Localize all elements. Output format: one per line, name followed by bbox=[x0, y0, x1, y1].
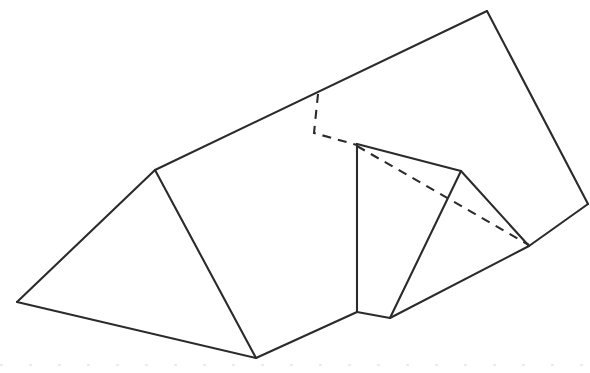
polyhedron-drawing bbox=[0, 0, 590, 373]
figure-canvas bbox=[0, 0, 590, 373]
